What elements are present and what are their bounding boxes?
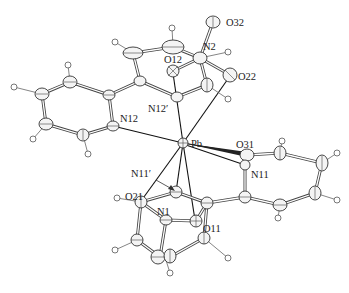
label-o32: O32 bbox=[226, 17, 244, 28]
label-o21: O21 bbox=[125, 191, 143, 202]
label-n12: N12 bbox=[120, 113, 138, 124]
crystal-structure-figure: Pb N12 N12′ O12 N2 O32 O22 O31 N11 N11′ … bbox=[0, 0, 349, 293]
n11-prime-arrow bbox=[156, 180, 175, 191]
label-pb: Pb bbox=[191, 138, 202, 149]
label-o31: O31 bbox=[236, 139, 254, 150]
label-n1: N1 bbox=[157, 206, 170, 217]
ortep-diagram: Pb N12 N12′ O12 N2 O32 O22 O31 N11 N11′ … bbox=[0, 0, 349, 293]
label-n2: N2 bbox=[203, 41, 216, 52]
label-o22: O22 bbox=[238, 71, 256, 82]
label-n11: N11 bbox=[251, 169, 269, 180]
label-o12: O12 bbox=[164, 54, 182, 65]
label-n11p: N11′ bbox=[131, 168, 151, 179]
label-o11: O11 bbox=[203, 223, 221, 234]
label-n12p: N12′ bbox=[148, 103, 168, 114]
